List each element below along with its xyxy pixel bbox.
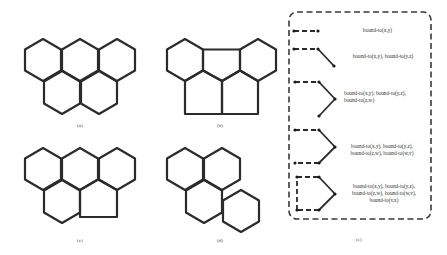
panel-d-graph xyxy=(167,148,259,232)
legend-shape-1 xyxy=(292,29,319,32)
legend-shape-3 xyxy=(293,80,336,117)
figure-canvas xyxy=(0,0,447,255)
panel-e-label: (e) xyxy=(356,237,362,242)
legend-shape-2 xyxy=(292,47,335,67)
panel-a-graph xyxy=(25,39,135,114)
panel-b-graph xyxy=(167,39,276,114)
legend-shape-5 xyxy=(295,175,336,211)
legend-text-3: bound-to(x,y), bound-to(y,z), bound-to(z… xyxy=(344,90,416,104)
legend-text-1: bound-to(x,y) xyxy=(340,27,415,34)
panel-d-label: (d) xyxy=(217,238,223,243)
panel-a-label: (a) xyxy=(77,123,83,128)
legend-text-4: bound-to(x,y), bound-to(y,z), bound-to(z… xyxy=(344,143,420,157)
panel-c-label: (c) xyxy=(77,238,83,243)
legend-text-2: bound-to(x,y), bound-to(y,z) xyxy=(338,53,428,60)
panel-c-graph xyxy=(25,148,135,223)
legend-text-5: bound-to(x,y), bound-to(y,z), bound-to(z… xyxy=(346,183,422,204)
panel-b-label: (b) xyxy=(217,123,223,128)
legend-shape-4 xyxy=(293,128,336,164)
